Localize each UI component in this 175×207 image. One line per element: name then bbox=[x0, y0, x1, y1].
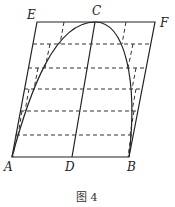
parallelogram-diagram: E C F A D B 图 4 bbox=[0, 0, 175, 207]
figure-caption: 图 4 bbox=[76, 191, 98, 204]
dashed-horizontals bbox=[16, 44, 151, 135]
label-A: A bbox=[3, 160, 13, 174]
label-B: B bbox=[126, 160, 136, 174]
label-C: C bbox=[92, 4, 101, 18]
label-E: E bbox=[26, 8, 36, 22]
arch-curve bbox=[12, 22, 132, 157]
label-D: D bbox=[64, 160, 75, 174]
label-F: F bbox=[159, 16, 169, 30]
